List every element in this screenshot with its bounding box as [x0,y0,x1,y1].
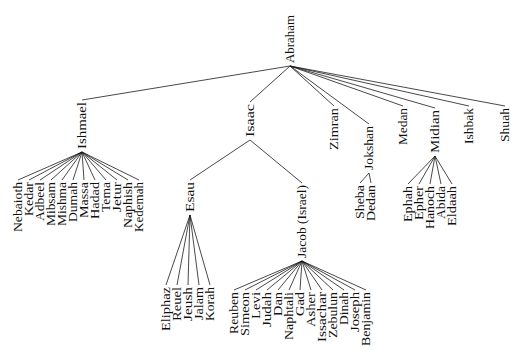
node-shuah: Shuah [499,108,511,142]
edge-jokshan-sheba [360,173,369,183]
edge-esau-eliphaz [166,215,190,285]
node-midian: Midian [429,110,441,153]
edge-midian-eldaah [435,156,452,184]
edge-ishmael-kedemah [82,152,139,180]
edge-ishmael-tema [82,152,106,180]
node-benjamin: Benjamin [360,292,373,346]
edge-abraham-shuah [290,66,505,106]
edge-jacob-judah [267,261,302,290]
edge-esau-korah [190,215,210,285]
tree-edges [18,66,505,290]
family-tree-diagram: AbrahamIshmaelIsaacZimranJokshanMedanMid… [0,0,521,350]
edge-isaac-esau [190,140,250,180]
node-jacob: Jacob (Israel) [296,185,309,258]
edge-jacob-dinah [302,261,344,290]
node-ishbak: Ishbak [463,108,475,144]
edge-ishmael-jetur [82,152,117,180]
tree-labels: AbrahamIshmaelIsaacZimranJokshanMedanMid… [12,15,511,346]
node-abraham: Abraham [284,15,296,63]
edge-jacob-simeon [245,261,302,290]
node-medan: Medan [397,108,409,145]
node-jokshan: Jokshan [363,126,375,170]
node-zimran: Zimran [328,108,340,150]
edge-jacob-reuben [234,261,302,290]
edge-abraham-medan [290,66,403,106]
edge-isaac-jacob [250,140,302,183]
node-eldaah: Eldaah [446,186,458,226]
node-korah: Korah [204,287,216,321]
node-esau: Esau [184,182,196,212]
node-isaac: Isaac [244,104,256,137]
edge-jacob-dan [278,261,302,290]
node-kedemah: Kedemah [133,182,145,232]
edge-jokshan-dedan [369,173,371,183]
edge-abraham-ishmael [82,66,290,100]
edge-abraham-midian [290,66,435,108]
node-ishmael: Ishmael [76,102,88,149]
node-dedan: Dedan [365,185,377,221]
edge-ishmael-adbeel [40,152,82,180]
edge-esau-jalam [190,215,199,285]
